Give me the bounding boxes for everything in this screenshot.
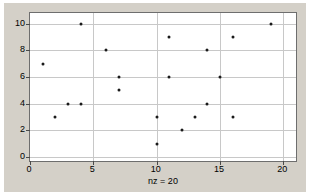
data-point [41,62,44,65]
plot-axes [29,12,297,162]
x-axis-tick-label: 5 [90,165,95,174]
gridline-horizontal [30,77,296,78]
x-axis-label: nz = 20 [29,177,297,186]
data-point [181,129,184,132]
data-point [117,89,120,92]
y-axis-tick [26,157,30,158]
x-axis-tick-label: 10 [151,165,161,174]
y-axis-tick [26,130,30,131]
data-point [269,22,272,25]
y-axis-tick-label: 0 [20,152,25,161]
y-axis-tick [26,104,30,105]
y-axis-tick [26,77,30,78]
gridline-horizontal [30,50,296,51]
data-point [168,76,171,79]
gridline-horizontal [30,130,296,131]
y-axis-tick-label: 2 [20,125,25,134]
gridline-horizontal [30,157,296,158]
data-point [105,49,108,52]
data-point [206,102,209,105]
data-point [219,76,222,79]
gridline-vertical [220,13,221,161]
y-axis-tick-label: 6 [20,72,25,81]
data-point [193,116,196,119]
gridline-horizontal [30,104,296,105]
y-axis-tick-label: 4 [20,98,25,107]
x-axis-tick-label: 20 [277,165,287,174]
gridline-vertical [283,13,284,161]
y-axis-tick [26,50,30,51]
data-point [155,142,158,145]
data-point [79,102,82,105]
plot-area [30,13,296,161]
y-axis-tick-label: 8 [20,45,25,54]
y-axis-tick [26,24,30,25]
data-point [168,36,171,39]
gridline-horizontal [30,24,296,25]
gridline-vertical [93,13,94,161]
x-axis-tick-label: 15 [214,165,224,174]
figure-panel: 0246810 05101520 nz = 20 [4,3,306,192]
x-axis-tick-label: 0 [26,165,31,174]
data-point [206,49,209,52]
data-point [155,116,158,119]
data-point [231,36,234,39]
y-axis-tick-labels: 0246810 [4,12,25,162]
gridline-vertical [157,13,158,161]
data-point [231,116,234,119]
data-point [67,102,70,105]
data-point [54,116,57,119]
data-point [117,76,120,79]
data-point [79,22,82,25]
y-axis-tick-label: 10 [15,18,25,27]
